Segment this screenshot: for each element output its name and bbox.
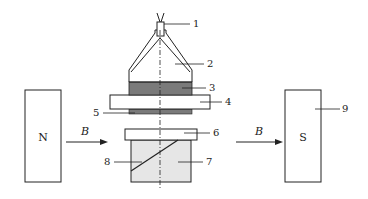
hood-outer <box>129 30 192 82</box>
callout-4: 4 <box>225 96 231 107</box>
callout-7: 7 <box>206 156 212 167</box>
nozzle-tip-left <box>157 13 160 22</box>
south-magnet: S 9 <box>285 90 348 182</box>
callout-9: 9 <box>342 103 348 114</box>
plate-6 <box>125 129 197 140</box>
diagram-canvas: N S 9 B B <box>0 0 368 199</box>
arrowhead-icon <box>275 139 283 145</box>
callout-5: 5 <box>93 107 99 118</box>
layer-3 <box>129 82 192 95</box>
nozzle-1 <box>157 22 164 36</box>
field-arrow-right: B <box>236 125 283 145</box>
callout-6: 6 <box>213 127 219 138</box>
callout-2: 2 <box>207 58 213 69</box>
layer-5 <box>129 109 192 114</box>
callout-3: 3 <box>209 82 215 93</box>
callout-8: 8 <box>104 156 110 167</box>
south-label: S <box>299 131 307 144</box>
field-label-left: B <box>80 125 89 138</box>
north-magnet: N <box>25 90 61 182</box>
field-label-right: B <box>254 125 263 138</box>
north-label: N <box>38 131 48 144</box>
callout-1: 1 <box>193 18 199 29</box>
apparatus: 1 2 3 4 5 6 7 8 <box>93 13 231 190</box>
nozzle-tip-right <box>161 13 164 22</box>
base-block-7 <box>131 140 191 182</box>
field-arrow-left: B <box>66 125 108 145</box>
arrowhead-icon <box>100 139 108 145</box>
